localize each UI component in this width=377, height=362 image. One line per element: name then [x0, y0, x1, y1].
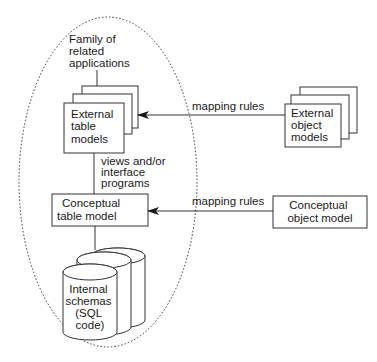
internal-schemas-node[interactable]: Internal schemas (SQL code)	[63, 248, 145, 340]
mapping-rules-top-label: mapping rules	[192, 100, 264, 112]
conceptual-table-model-node[interactable]: Conceptual table model	[52, 194, 148, 226]
conceptual-object-model-node[interactable]: Conceptual object model	[273, 196, 367, 228]
conceptual-table-model-label: Conceptual table model	[57, 197, 123, 222]
views-label: views and/or interface programs	[101, 155, 169, 189]
external-object-models-node[interactable]: External object models	[285, 87, 357, 147]
conceptual-object-model-label: Conceptual object model	[287, 199, 352, 224]
diagram-canvas: Family of related applications External …	[0, 0, 377, 362]
external-table-models-node[interactable]: External table models	[64, 86, 138, 153]
mapping-rules-bottom-label: mapping rules	[192, 195, 264, 207]
family-label: Family of related applications	[69, 33, 130, 69]
